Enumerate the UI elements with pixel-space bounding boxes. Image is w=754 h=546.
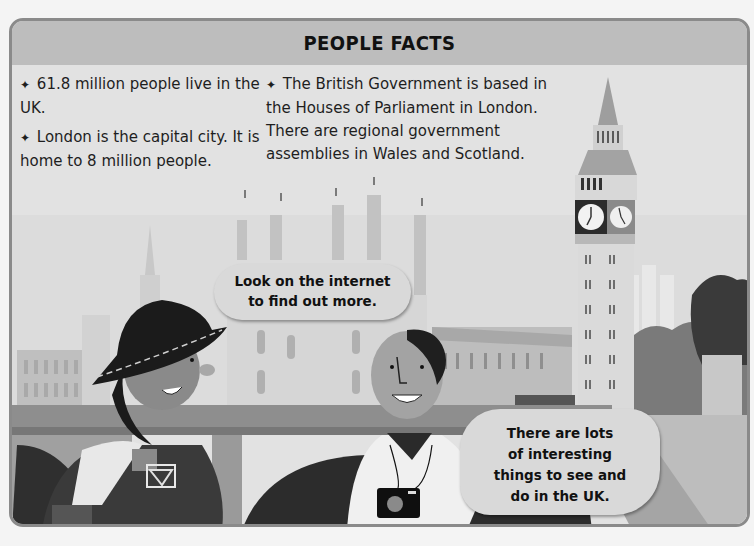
panel-header: PEOPLE FACTS bbox=[12, 21, 747, 65]
bullet-star-icon: ✦ bbox=[20, 78, 30, 92]
speech-bubble-internet: Look on the internet to find out more. bbox=[214, 264, 411, 320]
fact-capital: ✦ London is the capital city. It is home… bbox=[20, 126, 270, 173]
bubble-text-line: to find out more. bbox=[214, 291, 411, 311]
speech-bubble-interesting-things: There are lots of interesting things to … bbox=[460, 409, 660, 515]
facts-column-right: ✦ The British Government is based in the… bbox=[266, 73, 566, 172]
bubble-text-line: of interesting bbox=[460, 444, 660, 465]
page-title: PEOPLE FACTS bbox=[303, 31, 455, 55]
facts-column-left: ✦ 61.8 million people live in the UK. ✦ … bbox=[20, 73, 270, 179]
bullet-star-icon: ✦ bbox=[266, 78, 276, 92]
bubble-text-line: Look on the internet bbox=[214, 271, 411, 291]
bubble-text-line: There are lots bbox=[460, 423, 660, 444]
fact-population: ✦ 61.8 million people live in the UK. bbox=[20, 73, 270, 120]
fact-government: ✦ The British Government is based in the… bbox=[266, 73, 566, 166]
bullet-star-icon: ✦ bbox=[20, 131, 30, 145]
bubble-text-line: things to see and bbox=[460, 465, 660, 486]
bubble-text-line: do in the UK. bbox=[460, 486, 660, 507]
